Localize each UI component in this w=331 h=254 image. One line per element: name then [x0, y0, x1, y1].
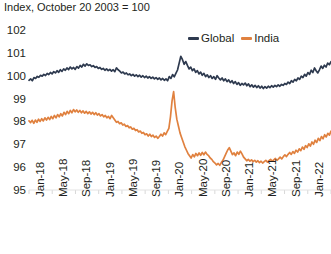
- x-tick-label: Jan-19: [104, 162, 116, 197]
- x-tick-label: Jan-22: [313, 162, 325, 197]
- x-tick-label: May-21: [266, 159, 278, 197]
- x-tick-label: May-18: [57, 159, 69, 197]
- x-tick-label: Jan-21: [243, 162, 255, 197]
- x-axis: Jan-18May-18Sep-18Jan-19May-19Sep-19Jan-…: [0, 0, 331, 254]
- chart-container: Index, October 20 2003 = 100 Global Indi…: [0, 0, 331, 254]
- x-tick-label: Sep-18: [80, 160, 92, 197]
- x-tick-label: May-19: [127, 159, 139, 197]
- x-tick-label: Sep-19: [150, 160, 162, 197]
- x-tick-label: Jan-20: [173, 162, 185, 197]
- x-tick-label: Jan-18: [34, 162, 46, 197]
- x-tick-label: May-20: [197, 159, 209, 197]
- x-tick-label: Sep-20: [220, 160, 232, 197]
- x-tick-label: Sep-21: [290, 160, 302, 197]
